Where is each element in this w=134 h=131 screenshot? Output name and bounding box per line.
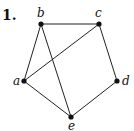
edges	[24, 24, 117, 117]
edge-d-e	[71, 81, 117, 117]
vertex-label-d: d	[122, 74, 130, 88]
edge-b-e	[41, 24, 71, 117]
vertex-label-c: c	[95, 6, 102, 20]
vertex-a	[21, 78, 26, 83]
edge-b-a	[24, 24, 41, 81]
edge-a-e	[24, 81, 71, 117]
vertex-c	[96, 21, 101, 26]
graph-diagram: 1. abcde	[0, 0, 134, 131]
edge-c-d	[99, 24, 117, 81]
vertex-d	[114, 78, 119, 83]
vertex-labels: abcde	[13, 6, 130, 131]
vertex-label-e: e	[68, 119, 75, 131]
edge-c-a	[24, 24, 99, 81]
vertex-label-b: b	[37, 6, 45, 20]
vertices	[21, 21, 119, 119]
vertex-b	[38, 21, 43, 26]
vertex-label-a: a	[13, 74, 20, 88]
problem-number: 1.	[2, 7, 17, 23]
